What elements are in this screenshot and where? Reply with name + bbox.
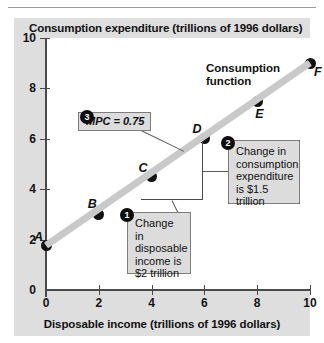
- x-axis-tick-label: 8: [245, 296, 269, 310]
- y-axis-tick-label: 6: [16, 132, 36, 146]
- curve-label-line-2: function: [206, 75, 280, 88]
- x-axis-tick: [310, 285, 311, 295]
- data-point-label-f: F: [314, 65, 322, 79]
- y-axis-tick-label: 10: [16, 31, 36, 45]
- x-axis-tick-label: 4: [140, 296, 164, 310]
- y-axis-tick: [40, 189, 50, 190]
- y-axis-title: Consumption expenditure (trillions of 19…: [29, 22, 303, 34]
- y-axis-tick: [40, 88, 50, 89]
- x-axis-tick-label: 0: [34, 296, 58, 310]
- leader-line-callout-2: [203, 171, 230, 172]
- y-axis-tick-label: 0: [16, 283, 36, 297]
- consumption-function-figure: Consumption expenditure (trillions of 19…: [0, 0, 324, 343]
- x-axis-tick-label: 10: [298, 296, 322, 310]
- data-point-label-a: A: [34, 230, 43, 244]
- callout-badge-2: 2: [221, 136, 235, 150]
- callout-change-in-consumption-expenditure: Change in consumption expenditure is $1.…: [228, 140, 300, 204]
- y-axis-tick: [40, 139, 50, 140]
- x-axis-tick-label: 6: [192, 296, 216, 310]
- curve-label-line-1: Consumption: [206, 62, 280, 75]
- data-point-label-e: E: [255, 107, 263, 121]
- x-axis-tick: [152, 285, 153, 295]
- y-axis-tick-label: 8: [16, 81, 36, 95]
- x-axis-tick: [99, 285, 100, 295]
- callout-change-in-disposable-income: Change in disposable income is $2 trilli…: [127, 212, 191, 274]
- y-axis-line: [45, 38, 47, 297]
- callout-badge-3: 3: [80, 110, 94, 124]
- top-divider: [8, 7, 316, 8]
- x-axis-tick-label: 2: [87, 296, 111, 310]
- x-axis-tick: [204, 285, 205, 295]
- y-axis-tick-label: 2: [16, 233, 36, 247]
- x-axis-tick: [257, 285, 258, 295]
- x-axis-title: Disposable income (trillions of 1996 dol…: [0, 318, 324, 330]
- x-axis-line: [45, 289, 310, 291]
- y-axis-tick-label: 4: [16, 182, 36, 196]
- y-axis-tick: [40, 38, 50, 39]
- consumption-function-label: Consumption function: [206, 62, 280, 87]
- callout-badge-1: 1: [120, 208, 134, 222]
